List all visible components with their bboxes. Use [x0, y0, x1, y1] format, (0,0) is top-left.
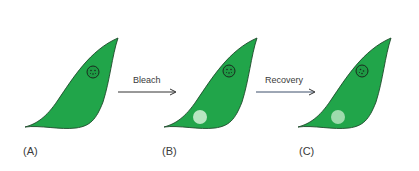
panel-label-b: (B) [162, 145, 177, 157]
cell-b [164, 38, 257, 128]
cell-c [298, 38, 391, 128]
bleach-label: Bleach [133, 75, 161, 85]
bleach-arrow [118, 89, 176, 95]
diagram-canvas [0, 0, 419, 171]
panel-label-a: (A) [23, 145, 38, 157]
nucleus-icon [87, 66, 99, 78]
nucleus-icon [356, 65, 368, 77]
nucleus-icon [223, 65, 235, 77]
panel-label-c: (C) [299, 145, 314, 157]
cell-a [25, 38, 118, 128]
frap-diagram: Bleach Recovery (A) (B) (C) [0, 0, 419, 171]
bleach-spot [193, 110, 207, 124]
recovery-label: Recovery [265, 75, 303, 85]
recovery-arrow [256, 89, 315, 95]
recovered-spot [331, 110, 345, 124]
